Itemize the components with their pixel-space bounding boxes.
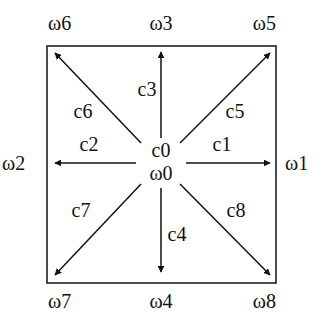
label-c7: c7 [72, 199, 91, 221]
label-w4: ω4 [149, 290, 172, 312]
label-w8: ω8 [253, 290, 276, 312]
arrow-c8 [180, 184, 270, 275]
label-c0: c0 [152, 139, 171, 161]
label-w7: ω7 [48, 290, 71, 312]
direction-diagram: ω6 ω3 ω5 ω2 ω1 ω7 ω4 ω8 c0 ω0 c3 c6 c5 c… [0, 0, 322, 324]
label-c8: c8 [227, 199, 246, 221]
label-w5: ω5 [253, 12, 276, 34]
label-c4: c4 [168, 223, 187, 245]
label-c2: c2 [80, 133, 99, 155]
arrow-c5 [180, 53, 270, 143]
label-w1: ω1 [285, 152, 308, 174]
label-c6: c6 [74, 100, 93, 122]
label-c5: c5 [226, 100, 245, 122]
label-w2: ω2 [2, 152, 25, 174]
label-w3: ω3 [149, 12, 172, 34]
label-w6: ω6 [48, 12, 71, 34]
label-c3: c3 [138, 78, 157, 100]
label-c1: c1 [213, 133, 232, 155]
label-w0: ω0 [149, 162, 172, 184]
arrow-c7 [55, 184, 141, 275]
arrow-c6 [55, 53, 141, 143]
